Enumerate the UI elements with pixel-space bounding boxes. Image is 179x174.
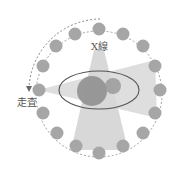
scan-arrow-head: [26, 86, 32, 92]
large-object: [77, 76, 107, 106]
ct-scan-diagram: X線 走査: [0, 0, 179, 174]
scan-label: 走査: [17, 96, 37, 108]
small-object: [105, 78, 121, 94]
xray-label: X線: [91, 40, 108, 52]
